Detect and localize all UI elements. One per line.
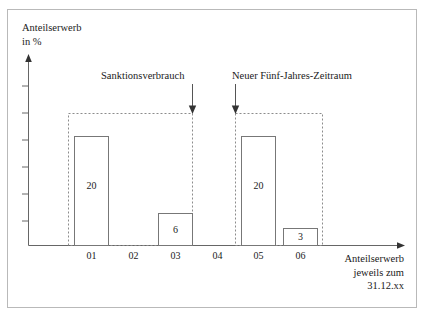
- x-tick-label-02: 02: [119, 250, 149, 261]
- y-axis: [22, 54, 32, 246]
- x-axis-title: Anteilserwerb jeweils zum 31.12.xx: [300, 252, 404, 293]
- bar-05: [242, 137, 276, 246]
- x-tick-label-03: 03: [161, 250, 191, 261]
- x-tick-label-04: 04: [203, 250, 233, 261]
- x-tick-label-06: 06: [286, 250, 316, 261]
- chart-screenshot: Anteilserwerb in % Anteilserwerb jeweils…: [0, 0, 423, 317]
- bar-value-label-05: 20: [242, 180, 276, 191]
- annotation-arrow-sanktionsverbrauch: [189, 84, 196, 114]
- bar-value-label-06: 3: [284, 231, 318, 242]
- bar-value-label-01: 20: [75, 180, 109, 191]
- annotation-label-sanktionsverbrauch: Sanktionsverbrauch: [101, 70, 184, 81]
- annotation-label-neuer-zeitraum: Neuer Fünf-Jahres-Zeitraum: [232, 70, 352, 81]
- y-tick-marks: [22, 86, 29, 221]
- annotation-arrow-neuer-zeitraum: [232, 84, 239, 114]
- x-tick-label-05: 05: [244, 250, 274, 261]
- bar-01: [75, 137, 109, 246]
- bar-value-label-03: 6: [159, 224, 193, 235]
- y-axis-title: Anteilserwerb in %: [22, 21, 81, 48]
- x-tick-label-01: 01: [77, 250, 107, 261]
